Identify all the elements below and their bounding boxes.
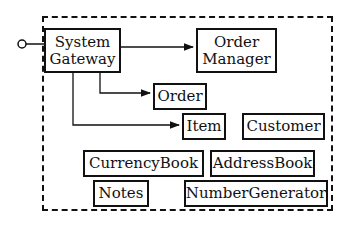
- item-box[interactable]: Item: [182, 113, 226, 140]
- customer-label: Customer: [246, 118, 320, 135]
- system-gateway-label-1: System: [55, 33, 111, 51]
- notes-box[interactable]: Notes: [93, 180, 149, 207]
- order-manager-label-1: Order: [214, 33, 259, 51]
- currency-book-label: CurrencyBook: [89, 155, 198, 172]
- system-gateway-box[interactable]: SystemGateway: [44, 28, 121, 73]
- number-generator-label: NumberGenerator: [186, 185, 326, 202]
- notes-label: Notes: [99, 185, 144, 202]
- order-manager-label-2: Manager: [202, 50, 271, 68]
- number-generator-box[interactable]: NumberGenerator: [184, 180, 328, 207]
- item-label: Item: [186, 118, 221, 135]
- address-book-label: AddressBook: [213, 155, 313, 172]
- address-book-box[interactable]: AddressBook: [210, 150, 315, 177]
- system-gateway-label-2: Gateway: [49, 50, 115, 68]
- currency-book-box[interactable]: CurrencyBook: [83, 150, 204, 177]
- order-box[interactable]: Order: [153, 83, 207, 110]
- order-label: Order: [157, 88, 202, 105]
- interface-port-icon: [18, 40, 26, 48]
- order-manager-box[interactable]: OrderManager: [196, 28, 277, 73]
- customer-box[interactable]: Customer: [242, 113, 325, 140]
